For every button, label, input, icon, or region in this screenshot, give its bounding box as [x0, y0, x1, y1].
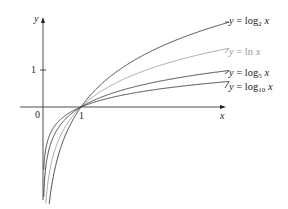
curve-y-log10-x	[44, 82, 229, 170]
x-axis-arrow-icon	[220, 105, 226, 109]
series-label: y = log5 x	[229, 68, 269, 80]
x-axis	[20, 105, 226, 109]
y-axis-label: y	[34, 14, 38, 24]
curve-y-ln-x	[46, 48, 229, 203]
logarithm-chart	[0, 0, 288, 209]
curves	[44, 22, 229, 204]
x-axis-label: x	[220, 111, 224, 121]
x-tick-label-1: 1	[79, 111, 84, 121]
series-label: y = ln x	[229, 47, 260, 58]
series-label: y = log10 x	[229, 82, 273, 94]
y-tick-label-1: 1	[31, 65, 36, 75]
origin-label: 0	[35, 110, 40, 120]
curve-y-log5-x	[44, 71, 229, 197]
series-label: y = log2 x	[229, 16, 269, 28]
y-axis-arrow-icon	[41, 17, 45, 23]
curve-y-log2-x	[49, 22, 229, 204]
